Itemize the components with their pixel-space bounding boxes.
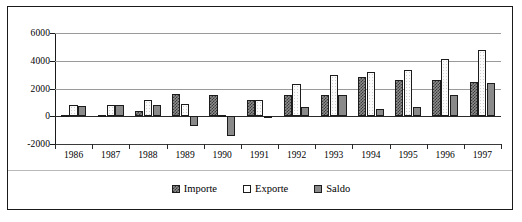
bar-importe-1986[interactable] — [61, 115, 69, 117]
legend-item-importe[interactable]: Importe — [172, 183, 217, 195]
y-tick-label: 4000 — [6, 56, 50, 66]
legend-label: Exporte — [255, 183, 288, 195]
x-tick-mark — [352, 144, 353, 149]
bar-importe-1987[interactable] — [98, 115, 106, 117]
x-tick-mark — [278, 144, 279, 149]
bar-importe-1995[interactable] — [395, 80, 403, 116]
bar-exporte-1991[interactable] — [255, 100, 263, 117]
bar-exporte-1986[interactable] — [69, 105, 77, 116]
y-tick-mark — [50, 33, 55, 34]
legend-label: Saldo — [326, 183, 350, 195]
bar-exporte-1990[interactable] — [218, 115, 226, 117]
bar-group-1995 — [390, 33, 427, 144]
bar-saldo-1986[interactable] — [78, 106, 86, 116]
bar-group-1993 — [315, 33, 352, 144]
x-tick-mark — [129, 144, 130, 149]
bar-saldo-1991[interactable] — [264, 116, 272, 118]
x-tick-mark — [427, 144, 428, 149]
y-tick-label: 0 — [6, 111, 50, 121]
bar-importe-1997[interactable] — [470, 82, 478, 117]
bar-importe-1991[interactable] — [247, 100, 255, 117]
bar-exporte-1989[interactable] — [181, 104, 189, 116]
x-tick-label-1997: 1997 — [459, 150, 505, 161]
exporte-swatch — [243, 185, 251, 193]
bar-group-1994 — [352, 33, 389, 144]
bar-exporte-1995[interactable] — [404, 70, 412, 116]
legend-label: Importe — [184, 183, 217, 195]
bar-importe-1988[interactable] — [135, 111, 143, 117]
bar-saldo-1990[interactable] — [227, 116, 235, 135]
bar-group-1989 — [167, 33, 204, 144]
legend-item-saldo[interactable]: Saldo — [314, 183, 350, 195]
bar-importe-1992[interactable] — [284, 95, 292, 116]
bar-group-1996 — [427, 33, 464, 144]
x-tick-mark — [167, 144, 168, 149]
y-tick-label: 2000 — [6, 84, 50, 94]
bar-exporte-1997[interactable] — [478, 50, 486, 117]
bar-saldo-1992[interactable] — [301, 107, 309, 117]
bar-groups — [55, 33, 501, 144]
bar-saldo-1989[interactable] — [190, 116, 198, 126]
y-tick-mark — [50, 61, 55, 62]
bar-saldo-1995[interactable] — [413, 107, 421, 117]
bar-saldo-1988[interactable] — [153, 105, 161, 116]
saldo-swatch — [314, 185, 322, 193]
bar-group-1992 — [278, 33, 315, 144]
x-tick-mark — [92, 144, 93, 149]
bar-group-1997 — [464, 33, 501, 144]
x-tick-mark — [390, 144, 391, 149]
x-tick-mark — [464, 144, 465, 149]
bar-saldo-1997[interactable] — [487, 83, 495, 116]
bar-exporte-1994[interactable] — [367, 72, 375, 116]
legend-separator — [8, 170, 512, 171]
x-tick-mark — [315, 144, 316, 149]
bar-exporte-1992[interactable] — [292, 84, 300, 116]
x-tick-mark — [501, 144, 502, 149]
bar-exporte-1988[interactable] — [144, 100, 152, 117]
chart-figure: 6000400020000-2000 198619871988198919901… — [0, 0, 522, 222]
bar-group-1987 — [92, 33, 129, 144]
bar-saldo-1996[interactable] — [450, 95, 458, 116]
bar-saldo-1994[interactable] — [376, 109, 384, 116]
bar-saldo-1993[interactable] — [338, 95, 346, 116]
chart-legend: ImporteExporteSaldo — [0, 183, 522, 195]
bar-group-1990 — [204, 33, 241, 144]
x-tick-mark — [241, 144, 242, 149]
importe-swatch — [172, 185, 180, 193]
bar-group-1991 — [241, 33, 278, 144]
bar-saldo-1987[interactable] — [115, 105, 123, 116]
bar-importe-1994[interactable] — [358, 77, 366, 116]
bar-importe-1996[interactable] — [432, 80, 440, 116]
bar-exporte-1993[interactable] — [330, 75, 338, 117]
bar-group-1988 — [129, 33, 166, 144]
x-tick-mark — [204, 144, 205, 149]
y-tick-label: -2000 — [6, 139, 50, 149]
bar-exporte-1987[interactable] — [107, 105, 115, 116]
bar-importe-1990[interactable] — [209, 95, 217, 116]
bar-importe-1993[interactable] — [321, 95, 329, 116]
y-tick-label: 6000 — [6, 28, 50, 38]
legend-item-exporte[interactable]: Exporte — [243, 183, 288, 195]
bar-importe-1989[interactable] — [172, 94, 180, 116]
bar-exporte-1996[interactable] — [441, 59, 449, 116]
y-tick-mark — [50, 116, 55, 117]
bar-group-1986 — [55, 33, 92, 144]
y-tick-mark — [50, 89, 55, 90]
x-tick-mark — [55, 144, 56, 149]
